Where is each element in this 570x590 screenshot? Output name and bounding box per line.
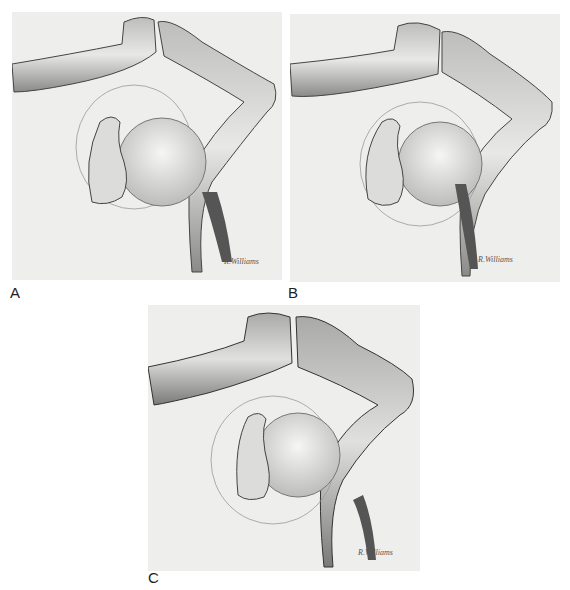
illustration-panel-a: R.Williams (12, 12, 282, 280)
shoulder-drawing-a: R.Williams (12, 12, 282, 280)
artist-signature: R.Williams (477, 255, 513, 264)
shoulder-drawing-b: R.Williams (290, 14, 560, 282)
panel-label-a: A (10, 285, 20, 300)
shoulder-drawing-c: R.Williams (148, 305, 420, 571)
illustration-panel-c: R.Williams (148, 305, 420, 571)
panel-label-b: B (288, 285, 298, 300)
artist-signature: R.Williams (223, 257, 259, 266)
artist-signature: R.Williams (357, 548, 393, 557)
panel-label-c: C (148, 570, 159, 585)
illustration-panel-b: R.Williams (290, 14, 560, 282)
